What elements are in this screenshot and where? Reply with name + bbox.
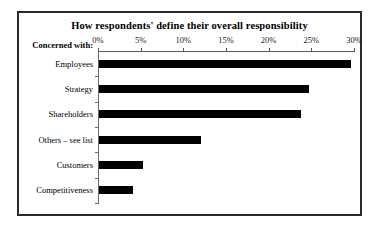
x-tick-label: 20%: [261, 35, 277, 45]
y-axis-title: Concerned with:: [32, 40, 93, 50]
y-tick-mark: [95, 76, 99, 77]
bar: [99, 60, 351, 68]
x-tick-label: 5%: [135, 35, 146, 45]
x-tick-mark: [311, 48, 312, 52]
x-tick-label: 25%: [304, 35, 320, 45]
x-tick-label: 15%: [218, 35, 234, 45]
x-tick-mark: [269, 48, 270, 52]
bar: [99, 110, 301, 118]
x-tick-label: 10%: [176, 35, 192, 45]
bar: [99, 161, 143, 169]
y-tick-mark: [95, 152, 99, 153]
x-tick-mark: [98, 48, 99, 52]
plot-area: Concerned with: 0%5%10%15%20%25%30% Empl…: [98, 51, 354, 203]
y-tick-label: Employees: [55, 60, 93, 68]
y-tick-mark: [95, 203, 99, 204]
y-tick-label: Customers: [57, 161, 93, 169]
x-tick-mark: [183, 48, 184, 52]
x-tick-mark: [226, 48, 227, 52]
y-tick-mark: [95, 178, 99, 179]
x-tick-mark: [354, 48, 355, 52]
chart-title: How respondents' define their overall re…: [19, 20, 360, 31]
y-tick-mark: [95, 102, 99, 103]
x-tick-mark: [141, 48, 142, 52]
bar: [99, 186, 133, 194]
x-tick-label: 30%: [346, 35, 362, 45]
chart-figure: How respondents' define their overall re…: [17, 11, 362, 216]
y-tick-label: Strategy: [65, 85, 93, 93]
y-tick-mark: [95, 127, 99, 128]
x-tick-label: 0%: [92, 35, 103, 45]
y-tick-label: Competitiveness: [36, 186, 93, 194]
y-tick-label: Others – see list: [38, 136, 93, 144]
bar: [99, 85, 309, 93]
bar: [99, 136, 201, 144]
y-tick-label: Shareholders: [49, 110, 93, 118]
